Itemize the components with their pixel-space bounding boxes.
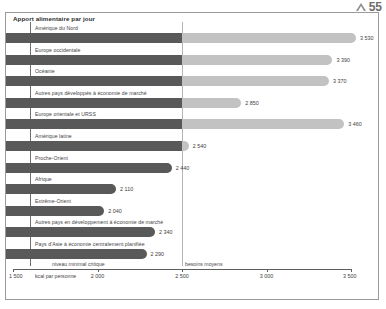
bar-value-label: 2 850 <box>245 99 259 108</box>
bar <box>6 33 378 43</box>
bar <box>6 98 378 108</box>
bar-category-label: Amérique du Nord <box>35 23 78 33</box>
bar-category-label: Autres pays en développement à économie … <box>35 217 163 227</box>
bar <box>6 227 378 237</box>
bar-category-label: Extrême-Orient <box>35 196 71 206</box>
bar-segment-above-average <box>182 76 329 86</box>
bar-value-label: 2 440 <box>176 164 190 173</box>
chart-row: Afrique2 110 <box>6 174 378 195</box>
axis-tick <box>182 269 183 272</box>
bar-value-label: 3 370 <box>333 77 347 86</box>
bar-segment-above-average <box>182 98 241 108</box>
reference-label-critical: niveau minimal critique <box>52 261 105 267</box>
chart-row: Europe occidentale3 390 <box>6 45 378 66</box>
bar-segment-below-average <box>6 33 182 43</box>
chart-row: Autres pays en développement à économie … <box>6 217 378 238</box>
axis-unit-label: kcal par personne <box>35 273 76 279</box>
chart-row: Autres pays développés à économie de mar… <box>6 88 378 109</box>
bar-segment-below-average <box>6 163 172 173</box>
bar-segment-above-average <box>182 141 189 151</box>
bar <box>6 206 378 216</box>
bar-category-label: Océanie <box>35 66 55 76</box>
bar-segment-below-average <box>6 98 182 108</box>
chart-row: Amérique latine2 540 <box>6 131 378 152</box>
bar-value-label: 3 390 <box>336 56 350 65</box>
chart-row: Europe orientale et URSS3 460 <box>6 109 378 130</box>
bar-category-label: Pays d'Asie à économie centralement plan… <box>35 239 145 249</box>
bar-value-label: 3 530 <box>360 34 374 43</box>
bar-segment-below-average <box>6 184 116 194</box>
bar <box>6 184 378 194</box>
triangle-icon <box>356 3 366 11</box>
chart-row: Océanie3 370 <box>6 66 378 87</box>
axis-tick-label: 2 000 <box>91 273 105 279</box>
bar-segment-above-average <box>182 55 332 65</box>
bar-value-label: 2 290 <box>151 250 165 259</box>
bar-value-label: 2 340 <box>159 228 173 237</box>
axis-tick-label: 1 500 <box>9 273 23 279</box>
bar-value-label: 2 110 <box>120 185 133 194</box>
bar-segment-below-average <box>6 206 104 216</box>
bar-segment-below-average <box>6 119 182 129</box>
axis-tick <box>351 269 352 272</box>
bar-segment-below-average <box>6 76 182 86</box>
bar-segment-below-average <box>6 249 147 259</box>
bar-value-label: 3 460 <box>348 120 362 129</box>
bar-value-label: 2 540 <box>193 142 207 151</box>
plot-area: Amérique du Nord3 530Europe occidentale3… <box>6 13 378 299</box>
chart-row: Proche-Orient2 440 <box>6 153 378 174</box>
chart-row: Amérique du Nord3 530 <box>6 23 378 44</box>
bar-segment-below-average <box>6 141 182 151</box>
bar-segment-above-average <box>182 119 344 129</box>
axis-tick-label: 3 000 <box>260 273 274 279</box>
bar-segment-below-average <box>6 227 155 237</box>
axis-tick <box>13 269 14 272</box>
bar-value-label: 2 040 <box>108 207 122 216</box>
bar <box>6 163 378 173</box>
bar-segment-below-average <box>6 55 182 65</box>
bar-category-label: Europe orientale et URSS <box>35 109 96 119</box>
bar <box>6 55 378 65</box>
reference-label-average: besoins moyens <box>185 261 223 267</box>
chart-row: Extrême-Orient2 040 <box>6 196 378 217</box>
bar <box>6 119 378 129</box>
chart-row: Pays d'Asie à économie centralement plan… <box>6 239 378 260</box>
axis-tick-label: 3 500 <box>343 273 357 279</box>
chart-frame: Apport alimentaire par jour Amérique du … <box>5 12 379 300</box>
bar <box>6 249 378 259</box>
bar-category-label: Afrique <box>35 174 52 184</box>
bar <box>6 76 378 86</box>
bar-category-label: Europe occidentale <box>35 45 80 55</box>
bar-segment-above-average <box>182 33 356 43</box>
bar-category-label: Amérique latine <box>35 131 72 141</box>
axis-tick-label: 2 500 <box>175 273 189 279</box>
bar-category-label: Autres pays développés à économie de mar… <box>35 88 147 98</box>
x-axis: kcal par personne 1 5002 0002 5003 0003 … <box>6 269 378 291</box>
axis-tick <box>98 269 99 272</box>
bar-category-label: Proche-Orient <box>35 153 68 163</box>
axis-tick <box>267 269 268 272</box>
